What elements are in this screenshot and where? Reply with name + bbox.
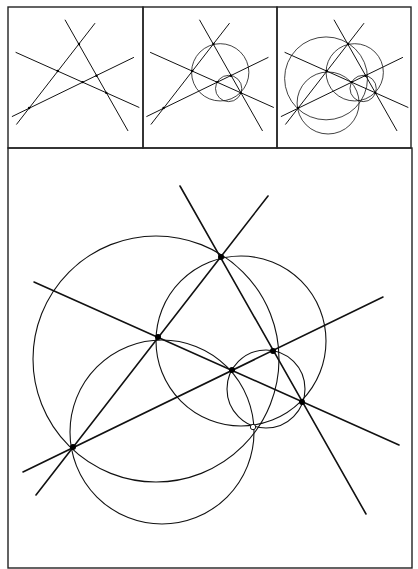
panel-step-2-two-circles: [147, 20, 274, 131]
panel-step-3-all-circles: [281, 20, 408, 134]
intersection-point-f: [297, 107, 299, 109]
panel-frame-step-2: [143, 7, 277, 148]
circle-small: [227, 350, 305, 428]
intersection-point-e: [240, 92, 242, 94]
panel-frame-main: [8, 148, 412, 568]
intersection-point-c: [81, 81, 83, 83]
circle-small: [215, 75, 241, 101]
intersection-point-e: [374, 92, 376, 94]
intersection-point-a: [78, 43, 80, 45]
intersection-point-b: [191, 70, 193, 72]
intersection-point-f: [70, 444, 76, 450]
intersection-point-a: [218, 254, 224, 260]
panel-main-miquel-configuration: [23, 186, 399, 524]
intersection-point-d: [95, 74, 97, 76]
miquel-point: [250, 424, 255, 429]
intersection-point-a: [347, 43, 349, 45]
line-l3: [285, 52, 408, 107]
intersection-point-d: [364, 74, 366, 76]
intersection-point-e: [299, 399, 305, 405]
intersection-point-d: [230, 74, 232, 76]
intersection-point-e: [105, 92, 107, 94]
intersection-point-f: [28, 107, 30, 109]
intersection-point-a: [212, 43, 214, 45]
panel-step-1-lines-only: [12, 20, 139, 131]
panel-frame-step-1: [8, 7, 143, 148]
line-l3: [150, 52, 273, 107]
intersection-point-d: [270, 348, 276, 354]
line-l3: [34, 282, 399, 445]
intersection-point-b: [326, 70, 328, 72]
geometry-figure: [0, 0, 418, 569]
line-l4: [23, 297, 383, 472]
intersection-point-c: [216, 81, 218, 83]
line-l3: [16, 52, 139, 107]
line-l2: [36, 196, 268, 495]
intersection-point-c: [229, 367, 235, 373]
intersection-point-b: [57, 70, 59, 72]
intersection-point-c: [350, 81, 352, 83]
intersection-point-f: [162, 107, 164, 109]
panel-frame-step-3: [277, 7, 411, 148]
intersection-point-b: [155, 334, 161, 340]
circle-big-left: [33, 236, 279, 482]
